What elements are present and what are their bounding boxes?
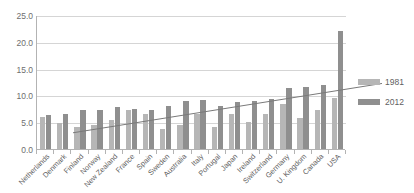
trend-line-segment xyxy=(73,83,382,132)
bar-2012 xyxy=(63,114,68,149)
trend-line xyxy=(73,32,382,166)
y-tick-label: 25.0 xyxy=(1,12,33,21)
y-tick-label: 15.0 xyxy=(1,65,33,74)
legend-item[interactable]: 2012 xyxy=(358,92,414,112)
bar-chart: 0.05.010.015.020.025.0 NetherlandsDenmar… xyxy=(0,0,414,193)
y-tick-label: 20.0 xyxy=(1,39,33,48)
legend-item[interactable]: 1981 xyxy=(358,72,414,92)
legend: 19812012 xyxy=(358,72,414,112)
plot-area xyxy=(36,16,345,150)
legend-swatch xyxy=(358,79,380,85)
legend-label: 2012 xyxy=(385,98,404,107)
legend-label: 1981 xyxy=(385,78,404,87)
bar-2012 xyxy=(46,115,51,149)
legend-swatch xyxy=(358,99,380,105)
y-tick-label: 5.0 xyxy=(1,119,33,128)
x-axis-labels: NetherlandsDenmarkFinlandNorwayNew Zeala… xyxy=(0,150,414,193)
y-tick-label: 10.0 xyxy=(1,92,33,101)
bar-1981 xyxy=(57,123,62,149)
gridline xyxy=(37,16,346,17)
bar-1981 xyxy=(40,117,45,149)
